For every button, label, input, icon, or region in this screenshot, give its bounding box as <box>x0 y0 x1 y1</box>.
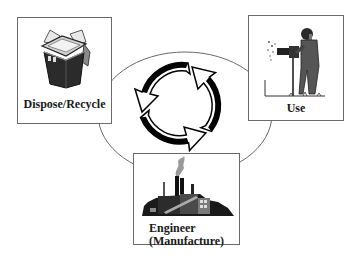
worker-with-drill-icon <box>259 22 335 102</box>
engineer-manufacture-node: Engineer (Manufacture) <box>133 153 240 245</box>
trash-bin-icon <box>36 26 96 92</box>
use-node: Use <box>248 15 344 121</box>
engineer-label-line2: (Manufacture) <box>149 235 239 248</box>
factory-icon <box>138 156 236 218</box>
recycle-arrows-icon <box>135 61 238 164</box>
dispose-recycle-node: Dispose/Recycle <box>17 17 112 124</box>
engineer-manufacture-label: Engineer (Manufacture) <box>134 222 239 248</box>
dispose-recycle-label: Dispose/Recycle <box>18 98 111 111</box>
use-label: Use <box>249 102 343 115</box>
lifecycle-diagram: Dispose/Recycle Use <box>0 0 356 257</box>
